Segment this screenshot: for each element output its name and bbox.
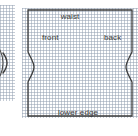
figure-canvas: waist front back lower edge [0,0,138,136]
label-back: back [104,33,121,42]
bodice-block-outline [22,8,138,118]
label-lower-edge: lower edge [58,108,98,117]
side-pattern-outline-fragment [0,5,15,101]
main-grid-panel [22,8,138,118]
label-front: front [42,33,59,42]
side-grid-panel [0,5,15,101]
label-waist: waist [61,12,80,21]
